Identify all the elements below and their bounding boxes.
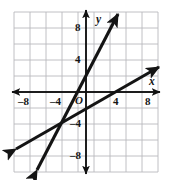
graph-canvas [0,0,172,180]
x-tick-label-8: 8 [145,96,151,107]
y-tick-label-4: 4 [75,54,81,65]
axes [12,10,160,174]
y-axis-label: y [96,14,101,25]
x-tick-label-neg8: –8 [18,96,29,107]
x-tick-label-4: 4 [113,96,119,107]
y-tick-label-neg8: –8 [70,150,81,161]
x-axis-label: x [149,76,155,87]
y-tick-label-neg4: –4 [70,118,81,129]
y-tick-label-8: 8 [75,22,81,33]
coordinate-plane-figure: –8 –4 4 8 8 4 –4 –8 y x O [0,0,172,180]
x-tick-label-neg4: –4 [50,96,61,107]
origin-label: O [75,95,83,106]
